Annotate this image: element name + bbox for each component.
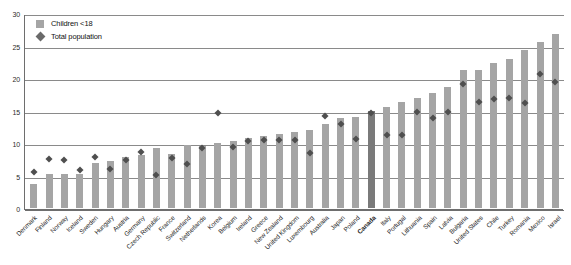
bar-group [57, 15, 72, 208]
bar-group [471, 15, 486, 208]
bar-group [517, 15, 532, 208]
bar-group [26, 15, 41, 208]
bar-chile [490, 63, 497, 208]
x-label-slot: Portugal [395, 212, 410, 265]
x-label-slot: Belgium [225, 212, 240, 265]
x-axis-label-israel: Israel [546, 214, 562, 230]
bar-luxembourg [306, 130, 313, 208]
x-label-slot: Korea [210, 212, 225, 265]
bar-group [394, 15, 409, 208]
x-label-slot: Mexico [533, 212, 548, 265]
bar-group [548, 15, 563, 208]
bar-group [486, 15, 501, 208]
x-label-slot: Australia [318, 212, 333, 265]
x-label-slot: Luxembourg [302, 212, 317, 265]
x-label-slot: Czech Republic [148, 212, 163, 265]
x-axis-labels: DenmarkFinlandNorwayIcelandSwedenHungary… [25, 212, 564, 265]
bar-japan [337, 118, 344, 208]
x-label-slot: Poland [349, 212, 364, 265]
x-label-slot: Turkey [503, 212, 518, 265]
bar-switzerland [184, 145, 191, 208]
bar-group [164, 15, 179, 208]
y-tick-label-25: 25 [0, 44, 20, 51]
y-tick-label-5: 5 [0, 174, 20, 181]
bar-group [103, 15, 118, 208]
y-tick-label-10: 10 [0, 141, 20, 148]
bar-series [26, 15, 563, 208]
bar-mexico [537, 42, 544, 208]
x-label-slot: Sweden [87, 212, 102, 265]
bar-group [456, 15, 471, 208]
diamond-australia [322, 113, 329, 120]
bar-group [225, 15, 240, 208]
bar-group [195, 15, 210, 208]
bar-group [302, 15, 317, 208]
bar-group [379, 15, 394, 208]
bar-group [532, 15, 547, 208]
bar-ireland [245, 138, 252, 208]
bar-group [348, 15, 363, 208]
x-label-slot: Netherlands [194, 212, 209, 265]
bar-group [133, 15, 148, 208]
diamond-sweden [92, 153, 99, 160]
bar-group [241, 15, 256, 208]
y-tick-label-0: 0 [0, 206, 20, 213]
x-label-slot: Israel [549, 212, 564, 265]
bar-spain [429, 93, 436, 208]
bar-group [440, 15, 455, 208]
x-label-slot: Iceland [71, 212, 86, 265]
x-axis-label-denmark: Denmark [15, 214, 38, 237]
x-label-slot: Hungary [102, 212, 117, 265]
bar-group [149, 15, 164, 208]
bar-sweden [92, 163, 99, 208]
bar-canada [368, 111, 375, 209]
poverty-rate-bar-chart: Children <18 Total population 0510152025… [0, 0, 571, 265]
bar-austria [122, 157, 129, 208]
bar-group [272, 15, 287, 208]
x-label-slot: Norway [56, 212, 71, 265]
bar-turkey [506, 59, 513, 209]
bar-group [118, 15, 133, 208]
bar-finland [46, 174, 53, 208]
bar-group [318, 15, 333, 208]
x-label-slot: Romania [518, 212, 533, 265]
bar-netherlands [199, 146, 206, 208]
bar-group [87, 15, 102, 208]
bar-group [364, 15, 379, 208]
bar-romania [521, 50, 528, 208]
y-tick-label-15: 15 [0, 109, 20, 116]
bar-korea [214, 143, 221, 208]
bar-iceland [76, 174, 83, 208]
x-label-slot: Finland [40, 212, 55, 265]
bar-group [410, 15, 425, 208]
diamond-korea [214, 109, 221, 116]
x-label-slot: Italy [379, 212, 394, 265]
bar-australia [322, 124, 329, 209]
diamond-denmark [30, 168, 37, 175]
bar-group [210, 15, 225, 208]
gridline-0 [25, 210, 564, 211]
bar-italy [383, 107, 390, 208]
bar-united-states [475, 70, 482, 208]
x-label-slot: Canada [364, 212, 379, 265]
diamond-norway [61, 156, 68, 163]
bar-israel [552, 34, 559, 208]
bar-portugal [398, 102, 405, 208]
bar-norway [61, 174, 68, 208]
bar-group [502, 15, 517, 208]
bar-group [425, 15, 440, 208]
bar-poland [352, 117, 359, 208]
bar-group [41, 15, 56, 208]
x-label-slot: Japan [333, 212, 348, 265]
bar-greece [260, 136, 267, 208]
y-tick-label-30: 30 [0, 11, 20, 18]
x-label-slot: Denmark [25, 212, 40, 265]
bar-latvia [444, 87, 451, 208]
x-label-slot: Spain [426, 212, 441, 265]
bar-group [72, 15, 87, 208]
bar-germany [138, 155, 145, 208]
plot-area [24, 15, 563, 210]
bar-group [179, 15, 194, 208]
y-tick-label-20: 20 [0, 76, 20, 83]
x-label-slot: United States [472, 212, 487, 265]
